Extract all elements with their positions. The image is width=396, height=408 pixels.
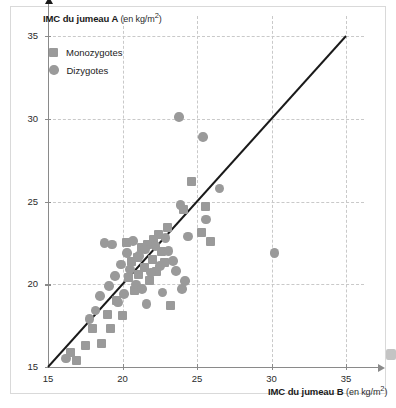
data-point-dizygotes <box>61 354 71 364</box>
data-point-dizygotes <box>142 299 152 309</box>
data-point-dizygotes <box>176 200 186 210</box>
data-point-dizygotes <box>174 112 184 122</box>
x-axis-title-text: IMC du jumeau B <box>268 386 344 397</box>
page-corner-mark <box>386 349 396 360</box>
y-axis-tick-label: 35 <box>12 30 38 41</box>
data-point-dizygotes <box>270 248 280 258</box>
data-point-dizygotes <box>113 298 123 308</box>
data-point-monozygotes <box>163 223 172 232</box>
legend-label-dizygotes: Dizygotes <box>67 65 109 76</box>
data-point-monozygotes <box>187 177 196 186</box>
x-axis-tick-label: 30 <box>259 373 285 384</box>
data-point-monozygotes <box>81 341 90 350</box>
data-point-dizygotes <box>125 265 135 275</box>
data-point-dizygotes <box>151 241 161 251</box>
legend-item-dizygotes: Dizygotes <box>49 61 123 79</box>
legend-label-monozygotes: Monozygotes <box>66 47 123 58</box>
data-point-monozygotes <box>72 356 81 365</box>
data-point-dizygotes <box>104 281 114 291</box>
data-point-monozygotes <box>206 237 215 246</box>
data-point-dizygotes <box>119 289 129 299</box>
gridline-vertical <box>272 16 273 367</box>
plot-area: IMC du jumeau A (en kg/m2) IMC du jumeau… <box>0 0 396 408</box>
data-point-dizygotes <box>198 132 208 142</box>
data-point-dizygotes <box>128 236 138 246</box>
y-axis-tick <box>45 284 51 285</box>
circle-marker-icon <box>49 65 59 75</box>
x-axis-tick <box>272 364 273 370</box>
x-axis-line <box>48 367 378 368</box>
gridline-horizontal <box>48 119 364 120</box>
gridline-horizontal <box>48 284 364 285</box>
data-point-monozygotes <box>118 311 127 320</box>
x-axis-tick-label: 15 <box>35 373 61 384</box>
data-point-monozygotes <box>166 301 175 310</box>
data-point-monozygotes <box>145 276 154 285</box>
data-point-dizygotes <box>137 284 147 294</box>
data-point-dizygotes <box>164 246 174 256</box>
y-axis-arrow-icon <box>45 0 53 4</box>
scatter-plot-figure: IMC du jumeau A (en kg/m2) IMC du jumeau… <box>0 0 396 408</box>
x-axis-tick-label: 20 <box>110 373 136 384</box>
y-axis-tick-label: 30 <box>12 113 38 124</box>
data-point-dizygotes <box>91 306 101 316</box>
gridline-vertical <box>197 16 198 367</box>
legend-item-monozygotes: Monozygotes <box>49 43 123 61</box>
data-point-dizygotes <box>146 268 156 278</box>
square-marker-icon <box>49 48 58 57</box>
y-axis-tick-label: 25 <box>12 196 38 207</box>
y-axis-tick-label: 20 <box>12 278 38 289</box>
data-point-dizygotes <box>201 215 211 225</box>
data-point-monozygotes <box>88 324 97 333</box>
x-axis-tick <box>123 364 124 370</box>
y-axis-tick <box>45 367 51 368</box>
data-point-dizygotes <box>158 288 168 298</box>
data-point-monozygotes <box>197 228 206 237</box>
data-point-dizygotes <box>95 291 105 301</box>
data-point-dizygotes <box>183 232 193 242</box>
y-axis-title-unit: (en kg/m2) <box>120 14 161 24</box>
legend: Monozygotes Dizygotes <box>49 43 123 79</box>
gridline-vertical <box>346 16 347 367</box>
y-axis-tick <box>45 202 51 203</box>
data-point-monozygotes <box>103 310 112 319</box>
data-point-dizygotes <box>155 261 165 271</box>
x-axis-title-unit: (en kg/m2) <box>346 387 387 397</box>
data-point-dizygotes <box>110 271 120 281</box>
data-point-dizygotes <box>161 233 171 243</box>
x-axis-title: IMC du jumeau B (en kg/m2) <box>268 384 387 397</box>
data-point-dizygotes <box>171 266 181 276</box>
data-point-dizygotes <box>122 248 132 258</box>
x-axis-arrow-icon <box>378 364 385 372</box>
data-point-monozygotes <box>201 202 210 211</box>
data-point-monozygotes <box>106 324 115 333</box>
data-point-dizygotes <box>107 240 117 250</box>
data-point-dizygotes <box>180 276 190 286</box>
x-axis-tick <box>346 364 347 370</box>
y-axis-tick <box>45 119 51 120</box>
data-point-dizygotes <box>168 256 178 266</box>
y-axis-tick-label: 15 <box>12 361 38 372</box>
data-point-dizygotes <box>85 314 95 324</box>
y-axis-title-text: IMC du jumeau A <box>43 13 118 24</box>
y-axis-title: IMC du jumeau A (en kg/m2) <box>43 11 162 24</box>
data-point-dizygotes <box>215 184 225 194</box>
data-point-dizygotes <box>140 245 150 255</box>
x-axis-tick-label: 25 <box>184 373 210 384</box>
gridline-horizontal <box>48 36 364 37</box>
x-axis-tick <box>197 364 198 370</box>
y-axis-tick <box>45 36 51 37</box>
data-point-dizygotes <box>177 284 187 294</box>
x-axis-tick-label: 35 <box>333 373 359 384</box>
data-point-monozygotes <box>97 339 106 348</box>
